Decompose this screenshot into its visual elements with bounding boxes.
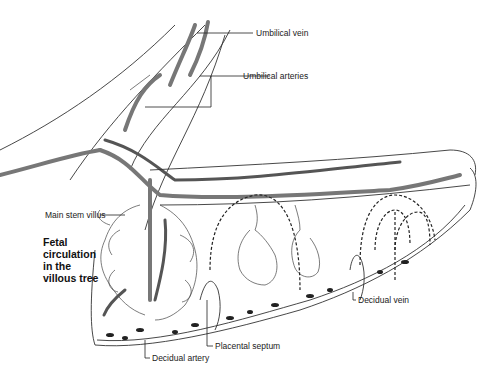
placental-septa — [200, 255, 364, 330]
label-decidual-vein: Decidual vein — [358, 295, 409, 305]
label-placental-septum: Placental septum — [215, 341, 280, 351]
label-fetal-circulation-2: circulation — [43, 248, 96, 260]
label-decidual-artery: Decidual artery — [152, 353, 210, 363]
label-fetal-circulation-1: Fetal — [43, 236, 68, 248]
placenta-diagram: Umbilical vein Umbilical arteries Main s… — [0, 0, 479, 375]
label-main-stem-villus: Main stem villus — [45, 210, 105, 220]
label-fetal-circulation-3: in the — [43, 260, 71, 272]
label-fetal-circulation-4: villous tree — [43, 272, 99, 284]
label-umbilical-vein: Umbilical vein — [256, 28, 309, 38]
label-umbilical-arteries: Umbilical arteries — [243, 71, 308, 81]
umbilical-cord — [0, 22, 230, 230]
villous-tree-middle — [238, 205, 320, 285]
